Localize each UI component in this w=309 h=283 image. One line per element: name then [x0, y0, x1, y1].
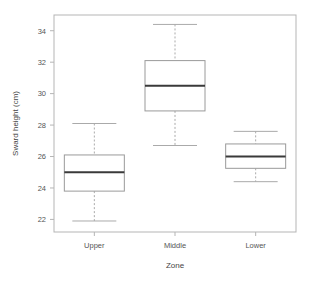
box-group-middle: [145, 24, 205, 145]
plot-canvas: 22242628303234Sward height (cm)UpperMidd…: [0, 0, 309, 283]
y-axis-tick-label: 34: [38, 27, 46, 36]
x-axis-category-label: Lower: [245, 241, 266, 250]
y-axis-tick-label: 26: [38, 152, 46, 161]
y-axis-tick-label: 22: [38, 215, 46, 224]
x-axis-title: Zone: [166, 261, 185, 270]
x-axis-category-label: Upper: [84, 241, 105, 250]
box-group-upper: [64, 124, 124, 221]
y-axis-tick-label: 30: [38, 89, 46, 98]
boxplot-chart: 22242628303234Sward height (cm)UpperMidd…: [0, 0, 309, 283]
y-axis-tick-label: 24: [38, 184, 46, 193]
y-axis-tick-label: 32: [38, 58, 46, 67]
y-axis-tick-label: 28: [38, 121, 46, 130]
y-axis-title: Sward height (cm): [11, 91, 20, 156]
x-axis-category-label: Middle: [164, 241, 186, 250]
box-group-lower: [226, 131, 286, 181]
